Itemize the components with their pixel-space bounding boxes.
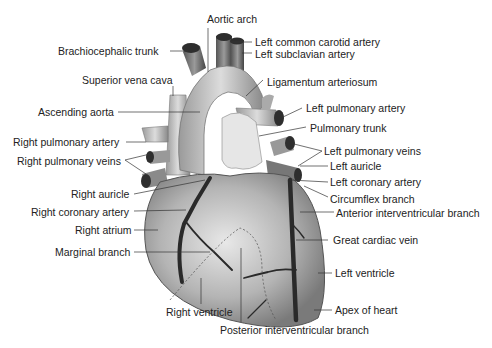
label-posterior-interventricular-branch: Posterior interventricular branch bbox=[220, 324, 369, 336]
label-aortic-arch: Aortic arch bbox=[207, 13, 257, 25]
label-right-coronary-artery: Right coronary artery bbox=[31, 206, 129, 218]
label-right-auricle: Right auricle bbox=[71, 188, 129, 200]
label-left-auricle: Left auricle bbox=[330, 160, 381, 172]
label-left-ventricle: Left ventricle bbox=[335, 267, 395, 279]
label-ascending-aorta: Ascending aorta bbox=[38, 106, 114, 118]
label-right-atrium: Right atrium bbox=[75, 224, 132, 236]
heart-diagram: Aortic arch Brachiocephalic trunk Left c… bbox=[0, 0, 492, 348]
label-anterior-interventricular-branch: Anterior interventricular branch bbox=[336, 207, 480, 219]
label-brachiocephalic-trunk: Brachiocephalic trunk bbox=[58, 45, 158, 57]
label-right-pulmonary-veins: Right pulmonary veins bbox=[17, 155, 121, 167]
label-left-common-carotid-artery: Left common carotid artery bbox=[255, 36, 380, 48]
label-marginal-branch: Marginal branch bbox=[55, 246, 130, 258]
label-pulmonary-trunk: Pulmonary trunk bbox=[310, 122, 386, 134]
label-circumflex-branch: Circumflex branch bbox=[330, 193, 415, 205]
label-left-pulmonary-artery: Left pulmonary artery bbox=[306, 102, 405, 114]
label-apex-of-heart: Apex of heart bbox=[335, 304, 397, 316]
brachiocephalic-trunk-vessel bbox=[182, 43, 206, 76]
label-ligamentum-arteriosum: Ligamentum arteriosum bbox=[267, 76, 377, 88]
label-superior-vena-cava: Superior vena cava bbox=[82, 74, 172, 86]
label-left-coronary-artery: Left coronary artery bbox=[330, 176, 421, 188]
label-right-pulmonary-artery: Right pulmonary artery bbox=[13, 136, 119, 148]
label-great-cardiac-vein: Great cardiac vein bbox=[333, 234, 418, 246]
right-pulmonary-vessels bbox=[141, 126, 170, 188]
label-left-pulmonary-veins: Left pulmonary veins bbox=[324, 145, 421, 157]
label-left-subclavian-artery: Left subclavian artery bbox=[255, 48, 355, 60]
label-right-ventricle: Right ventricle bbox=[166, 306, 233, 318]
